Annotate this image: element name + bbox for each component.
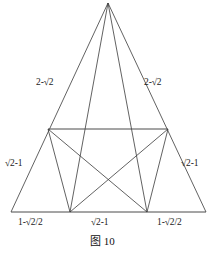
- label-left-lower-side-text: √2-1: [5, 158, 22, 168]
- label-base-right-text: 1-√2/2: [157, 217, 182, 227]
- figure-caption-text: 图 10: [90, 235, 115, 247]
- triangle-left-side: [11, 3, 108, 212]
- apex-cevians: [70, 3, 147, 212]
- outer-triangle: [11, 3, 206, 212]
- label-base-center-text: √2-1: [91, 217, 108, 227]
- trapezoid-diagonal-left-to-right: [48, 129, 147, 212]
- label-base-left: 1-√2/2: [18, 218, 43, 228]
- figure-caption: 图 10: [90, 236, 115, 247]
- label-left-lower-side: √2-1: [5, 159, 22, 169]
- apex-to-inner-right: [108, 3, 147, 212]
- trapezoid-right-leg: [147, 129, 168, 212]
- trapezoid-diagonal-right-to-left: [70, 129, 168, 212]
- label-right-upper-side: 2-√2: [144, 78, 161, 88]
- midline-and-trapezoid: [48, 129, 168, 212]
- label-base-center: √2-1: [91, 218, 108, 228]
- label-left-upper-side: 2-√2: [36, 78, 53, 88]
- label-base-right: 1-√2/2: [157, 218, 182, 228]
- label-left-upper-side-text: 2-√2: [36, 77, 53, 87]
- label-right-upper-side-text: 2-√2: [144, 77, 161, 87]
- label-base-left-text: 1-√2/2: [18, 217, 43, 227]
- label-right-lower-side-text: √2-1: [181, 158, 198, 168]
- trapezoid-left-leg: [48, 129, 70, 212]
- apex-to-inner-left: [70, 3, 108, 212]
- label-right-lower-side: √2-1: [181, 159, 198, 169]
- figure-container: 2-√2 2-√2 √2-1 √2-1 1-√2/2 √2-1 1-√2/2 图…: [0, 0, 219, 257]
- triangle-right-side: [108, 3, 206, 212]
